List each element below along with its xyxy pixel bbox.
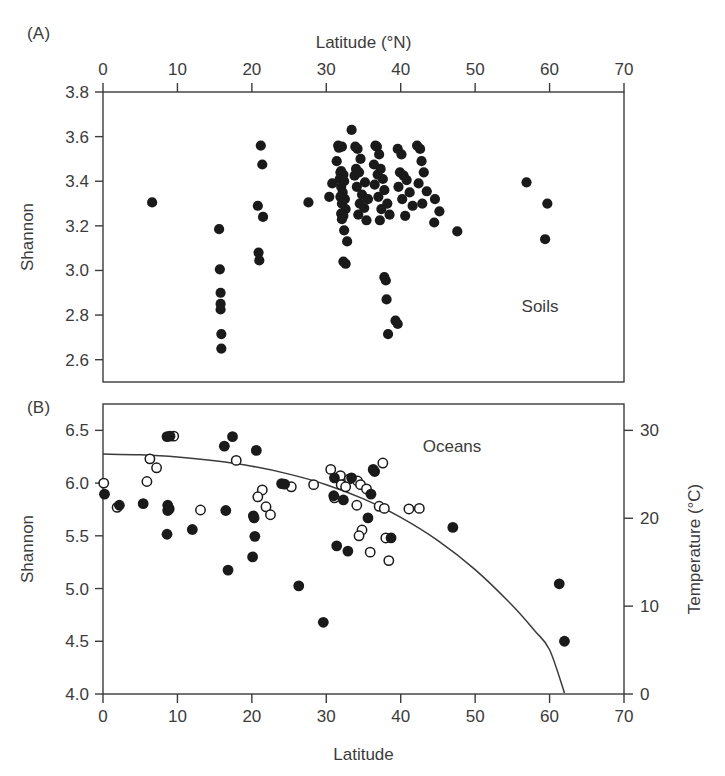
svg-text:30: 30: [317, 707, 336, 726]
panel-b-x-ticks: [103, 694, 624, 703]
panel-b-y-tick-labels: 4.04.55.05.56.06.5: [65, 421, 89, 704]
svg-text:2.6: 2.6: [65, 351, 89, 370]
svg-text:30: 30: [640, 421, 659, 440]
panel-a-x-tick-labels: 010203040506070: [98, 60, 633, 79]
svg-text:10: 10: [168, 60, 187, 79]
svg-text:4.5: 4.5: [65, 632, 89, 651]
panel-a-y-tick-labels: 2.62.83.03.23.43.63.8: [65, 83, 89, 370]
panel-b: 010203040506070 4.04.55.05.56.06.5 01020…: [18, 404, 704, 764]
svg-text:3.4: 3.4: [65, 172, 89, 191]
svg-text:70: 70: [615, 60, 634, 79]
svg-text:3.2: 3.2: [65, 217, 89, 236]
figure-container: (A) (B) 010203040506070 2.62.83.03.23.43…: [0, 0, 725, 776]
panel-a-y-ticks: [95, 92, 103, 360]
svg-text:3.0: 3.0: [65, 261, 89, 280]
fitted-temperature-curve: [103, 454, 564, 693]
svg-text:0: 0: [640, 685, 649, 704]
svg-text:10: 10: [640, 597, 659, 616]
panel-b-y-ticks-right: [624, 430, 633, 694]
svg-text:0: 0: [98, 707, 107, 726]
panel-a-y-axis-title: Shannon: [18, 203, 37, 271]
panel-a-data-points: [147, 125, 552, 354]
svg-text:60: 60: [540, 60, 559, 79]
scatter-plot-svg: 010203040506070 2.62.83.03.23.43.63.8 La…: [0, 0, 725, 776]
svg-text:3.8: 3.8: [65, 83, 89, 102]
svg-text:3.6: 3.6: [65, 128, 89, 147]
svg-text:50: 50: [466, 60, 485, 79]
panel-b-frame: [103, 404, 624, 694]
panel-b-y-tick-labels-right: 0102030: [640, 421, 659, 704]
svg-text:0: 0: [98, 60, 107, 79]
panel-b-tag: (B): [27, 398, 50, 418]
svg-text:20: 20: [242, 707, 261, 726]
panel-b-x-tick-labels: 010203040506070: [98, 707, 633, 726]
panel-b-y-axis-title: Shannon: [18, 515, 37, 583]
panel-a-x-axis-title: Latitude (°N): [316, 33, 412, 52]
panel-b-y-axis-title-right: Temperature (°C): [685, 484, 704, 615]
svg-text:5.0: 5.0: [65, 580, 89, 599]
svg-text:2.8: 2.8: [65, 306, 89, 325]
svg-text:40: 40: [391, 707, 410, 726]
svg-text:5.5: 5.5: [65, 527, 89, 546]
svg-text:60: 60: [540, 707, 559, 726]
panel-a-tag: (A): [27, 24, 50, 44]
svg-text:6.5: 6.5: [65, 421, 89, 440]
svg-text:40: 40: [391, 60, 410, 79]
panel-a: 010203040506070 2.62.83.03.23.43.63.8 La…: [18, 33, 633, 382]
panel-b-shannon-points: [99, 431, 570, 647]
panel-b-annotation: Oceans: [423, 437, 482, 456]
panel-a-x-ticks: [103, 83, 624, 92]
svg-text:10: 10: [168, 707, 187, 726]
svg-text:20: 20: [242, 60, 261, 79]
svg-text:30: 30: [317, 60, 336, 79]
panel-a-annotation: Soils: [522, 297, 559, 316]
svg-text:20: 20: [640, 509, 659, 528]
svg-text:4.0: 4.0: [65, 685, 89, 704]
panel-b-y-ticks: [95, 430, 103, 694]
panel-b-x-axis-title: Latitude: [333, 745, 394, 764]
svg-text:70: 70: [615, 707, 634, 726]
svg-text:6.0: 6.0: [65, 474, 89, 493]
svg-text:50: 50: [466, 707, 485, 726]
